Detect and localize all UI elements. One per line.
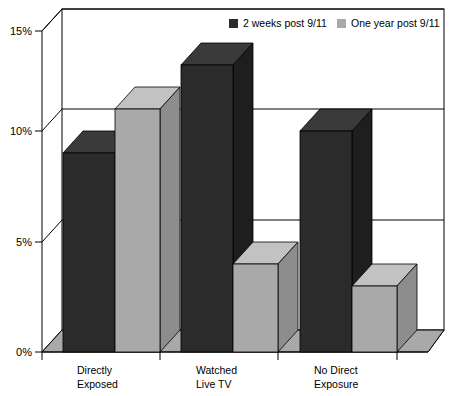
gridline-depth-5: [42, 220, 62, 242]
gridline-depth-10: [42, 109, 62, 131]
bar-front-face: [352, 286, 397, 352]
category-label-directly-exposed-line2: Exposed: [77, 378, 118, 390]
bar-one-year-directly-exposed[interactable]: [115, 87, 180, 352]
ytick-label-0: 0%: [16, 346, 32, 358]
bar-one-year-no-direct-exposure[interactable]: [352, 264, 417, 352]
legend-swatch-one-year: [337, 19, 346, 28]
bar-chart-3d: 15% 10% 5% 0%: [0, 0, 458, 396]
ytick-label-15: 15%: [10, 25, 32, 37]
bar-front-face: [63, 153, 115, 352]
legend-entry-2-weeks[interactable]: 2 weeks post 9/11: [229, 17, 327, 29]
bar-one-year-watched-live-tv[interactable]: [233, 242, 298, 352]
bar-front-face: [115, 109, 160, 352]
y-axis-labels: 15% 10% 5% 0%: [10, 25, 32, 358]
x-axis-ticks: [42, 352, 397, 360]
category-label-no-direct-exposure-line1: No Direct: [314, 364, 358, 376]
x-axis-labels: Directly Exposed Watched Live TV No Dire…: [77, 364, 359, 390]
bar-front-face: [181, 65, 233, 352]
category-label-watched-live-tv-line1: Watched: [196, 364, 237, 376]
ytick-label-5: 5%: [16, 236, 32, 248]
ytick-label-10: 10%: [10, 125, 32, 137]
chart-container: 15% 10% 5% 0%: [0, 0, 458, 396]
bar-side-face: [160, 87, 180, 352]
legend-label-one-year: One year post 9/11: [351, 17, 440, 29]
gridline-depth-15: [42, 9, 62, 31]
legend-label-2-weeks: 2 weeks post 9/11: [243, 17, 327, 29]
bar-front-face: [233, 264, 278, 352]
category-label-no-direct-exposure-line2: Exposure: [314, 378, 359, 390]
legend-entry-one-year[interactable]: One year post 9/11: [337, 17, 440, 29]
legend-swatch-2-weeks: [229, 19, 238, 28]
category-label-directly-exposed-line1: Directly: [77, 364, 113, 376]
category-label-watched-live-tv-line2: Live TV: [196, 378, 231, 390]
bar-front-face: [300, 131, 352, 352]
